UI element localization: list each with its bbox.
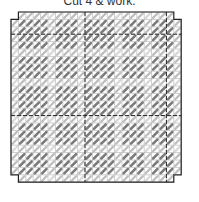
stitch-cells bbox=[13, 14, 180, 181]
stitch-chart bbox=[0, 0, 199, 202]
